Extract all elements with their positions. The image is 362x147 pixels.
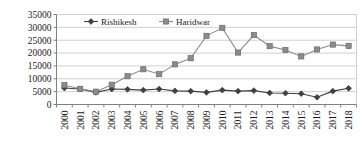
data-point-marker — [299, 54, 304, 59]
y-tick-label: 35000 — [28, 10, 52, 20]
data-point-marker — [314, 47, 319, 52]
y-tick-label: 0 — [47, 100, 52, 110]
line-chart: 05000100001500020000250003000035000 2000… — [0, 0, 362, 147]
x-tick-label: 2016 — [312, 110, 322, 129]
y-tick-label: 5000 — [33, 87, 52, 97]
x-tick-label: 2002 — [91, 110, 101, 129]
data-point-marker — [93, 89, 98, 94]
y-tick-label: 15000 — [28, 61, 52, 71]
x-tick-label: 2009 — [202, 110, 212, 129]
x-tick-label: 2010 — [218, 110, 228, 129]
legend-marker-square-icon — [163, 19, 168, 24]
chart-container: 05000100001500020000250003000035000 2000… — [0, 0, 362, 147]
data-point-marker — [172, 62, 177, 67]
y-tick-label: 25000 — [28, 36, 52, 46]
x-tick-label: 2001 — [76, 110, 86, 129]
data-point-marker — [251, 32, 256, 37]
data-point-marker — [109, 82, 114, 87]
y-tick-label: 30000 — [28, 23, 52, 33]
x-tick-label: 2008 — [186, 110, 196, 129]
x-tick-label: 2006 — [155, 110, 165, 129]
data-point-marker — [330, 42, 335, 47]
data-point-marker — [204, 33, 209, 38]
data-point-marker — [78, 86, 83, 91]
x-tick-label: 2012 — [249, 110, 259, 129]
data-point-marker — [235, 50, 240, 55]
x-tick-label: 2017 — [328, 110, 338, 129]
data-point-marker — [220, 25, 225, 30]
x-tick-label: 2011 — [233, 110, 243, 129]
data-point-marker — [267, 44, 272, 49]
legend-label: Rishikesh — [101, 17, 137, 27]
y-tick-label: 10000 — [28, 74, 52, 84]
data-point-marker — [346, 43, 351, 48]
x-tick-label: 2004 — [123, 110, 133, 129]
x-tick-label: 2018 — [344, 110, 354, 129]
x-tick-label: 2007 — [170, 110, 180, 129]
legend-label: Haridwar — [176, 17, 210, 27]
data-point-marker — [62, 83, 67, 88]
data-point-marker — [157, 72, 162, 77]
x-tick-label: 2014 — [281, 110, 291, 129]
x-tick-label: 2003 — [107, 110, 117, 129]
data-point-marker — [125, 74, 130, 79]
y-tick-label: 20000 — [28, 48, 52, 58]
x-tick-label: 2000 — [60, 110, 70, 129]
data-point-marker — [141, 67, 146, 72]
x-tick-label: 2013 — [265, 110, 275, 129]
x-tick-label: 2015 — [297, 110, 307, 129]
x-tick-label: 2005 — [139, 110, 149, 129]
data-point-marker — [283, 47, 288, 52]
data-point-marker — [188, 56, 193, 61]
